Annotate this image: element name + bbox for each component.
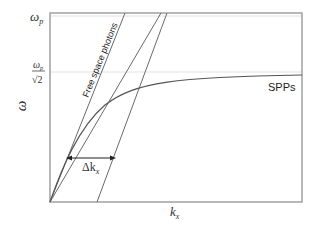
delta-kx-label: Δkx [82,160,100,176]
spp-curve-label: SPPs [268,81,296,93]
omega-p-tick-label: ωp [30,9,43,26]
free-space-photons-label: Free space photons [81,21,120,99]
x-axis-label: kx [170,204,180,221]
dispersion-diagram: Δkx ωp ωp √2 ω kx SPPs Free space photon… [0,0,315,227]
svg-text:√2: √2 [32,74,43,85]
y-axis-label: ω [13,101,29,112]
omega-p-over-root2-tick-label: ωp √2 [32,59,45,85]
svg-text:ωp: ωp [33,59,43,71]
